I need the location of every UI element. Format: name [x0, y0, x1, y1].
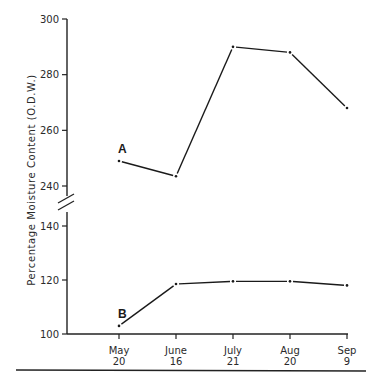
y-ticks: 240260280300100120140: [40, 14, 67, 340]
x-ticks: May20June16July21Aug20Sep9: [109, 334, 357, 367]
data-point: [175, 283, 178, 286]
data-point: [289, 280, 292, 283]
series-segment: [122, 162, 173, 176]
x-tick-label: 9: [344, 356, 350, 367]
x-tick-label: July: [223, 345, 242, 356]
x-tick-label: 21: [227, 356, 240, 367]
x-tick-label: Sep: [338, 345, 357, 356]
y-tick-label: 260: [40, 125, 59, 136]
series-segment: [293, 282, 344, 286]
series-label-b: B: [118, 307, 127, 321]
y-tick-label: 100: [40, 329, 59, 340]
caption-rule: [16, 370, 366, 371]
series-segment: [179, 281, 230, 283]
x-tick-label: June: [164, 345, 187, 356]
y-axis-title: Percentage Moisture Content (O.D.W.): [26, 74, 37, 285]
series-label-a: A: [118, 142, 127, 156]
y-tick-label: 280: [40, 69, 59, 80]
x-tick-label: 16: [170, 356, 183, 367]
y-tick-label: 240: [40, 181, 59, 192]
data-point: [175, 175, 178, 178]
x-tick-label: 20: [284, 356, 297, 367]
series-b: B: [118, 280, 349, 327]
y-tick-label: 120: [40, 275, 59, 286]
series-segment: [236, 47, 287, 52]
x-tick-label: Aug: [280, 345, 300, 356]
series-segment: [292, 54, 345, 105]
x-tick-label: May: [109, 345, 130, 356]
data-point: [346, 107, 349, 110]
series-segment: [121, 286, 173, 324]
data-point: [346, 284, 349, 287]
y-tick-label: 300: [40, 14, 59, 25]
data-point: [289, 51, 292, 54]
data-point: [118, 325, 121, 328]
moisture-chart: 240260280300100120140 May20June16July21A…: [0, 0, 366, 380]
data-point: [232, 280, 235, 283]
series-a: A: [118, 46, 349, 178]
y-tick-label: 140: [40, 221, 59, 232]
data-point: [232, 46, 235, 49]
data-point: [118, 160, 121, 163]
series: AB: [118, 46, 349, 328]
x-tick-label: 20: [113, 356, 126, 367]
series-segment: [177, 50, 232, 174]
